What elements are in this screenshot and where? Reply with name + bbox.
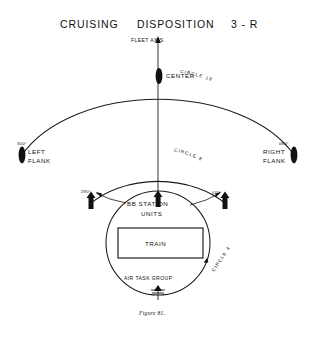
right-flank-label-line1: RIGHT bbox=[263, 148, 285, 155]
air-task-group-arrow bbox=[154, 285, 162, 291]
center-ship-icon bbox=[156, 68, 163, 84]
diagram-canvas: CRUISING DISPOSITION 3 - R FLEET AXIS CE… bbox=[0, 0, 316, 362]
circle-4-label: CIRCLE 4 bbox=[211, 245, 232, 272]
title-word-disposition: DISPOSITION bbox=[137, 18, 215, 30]
figure-caption: Figure 81. bbox=[138, 310, 165, 316]
bb-station-label-line2: UNITS bbox=[141, 210, 162, 217]
bb-left-bearing: 290° bbox=[81, 189, 91, 194]
figure-diagram: CRUISING DISPOSITION 3 - R FLEET AXIS CE… bbox=[0, 0, 316, 362]
train-label: TRAIN bbox=[145, 240, 166, 247]
left-flank-label-line1: LEFT bbox=[28, 148, 45, 155]
title-word-cruising: CRUISING bbox=[60, 18, 119, 30]
left-flank-label-line2: FLANK bbox=[28, 157, 51, 164]
right-flank-ship-icon bbox=[291, 147, 298, 164]
circle-8-label: CIRCLE 8 bbox=[174, 147, 204, 162]
fleet-axis-label: FLEET AXIS bbox=[131, 37, 164, 43]
bb-right-bearing: 070° bbox=[212, 190, 222, 195]
bb-station-label-line1: BB STATION bbox=[127, 200, 168, 207]
bb-right-ship-arrow bbox=[221, 192, 230, 199]
title-word-number: 3 - R bbox=[231, 18, 258, 30]
right-flank-label-line2: FLANK bbox=[263, 157, 286, 164]
circle-4-label-group: CIRCLE 4 bbox=[211, 245, 232, 272]
air-task-group-label: AIR TASK GROUP bbox=[124, 275, 173, 281]
left-flank-bearing: 300° bbox=[17, 141, 27, 146]
left-flank-ship-icon bbox=[19, 147, 26, 164]
right-flank-bearing: 080° bbox=[279, 141, 289, 146]
